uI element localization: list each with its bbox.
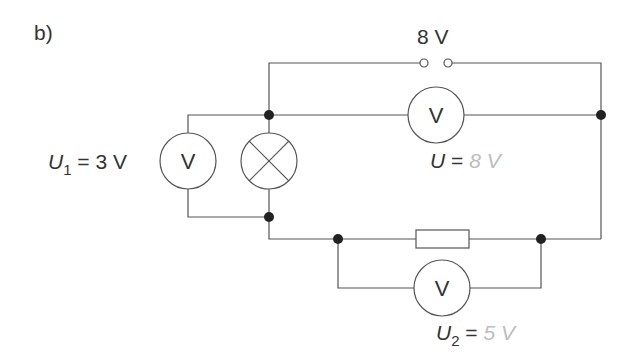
reading-u1-value: 3 V (95, 150, 127, 173)
reading-u2: U2 = 5 V (436, 322, 515, 343)
wire-middle-left (188, 115, 408, 133)
lamp-icon (241, 133, 297, 189)
reading-u1: U1 = 3 V (48, 151, 127, 172)
reading-u-equals: = (451, 149, 463, 172)
wire-u2-left (338, 239, 414, 288)
reading-u1-symbol: U (48, 150, 63, 173)
reading-u2-symbol: U (436, 321, 451, 344)
reading-u1-equals: = (77, 150, 89, 173)
circuit-diagram: V V V (0, 0, 629, 359)
reading-u: U = 8 V (430, 150, 501, 171)
wire-top-left (269, 63, 420, 115)
reading-u1-subscript: 1 (63, 161, 71, 178)
wire-u2-right (470, 239, 541, 288)
junction-dot (596, 110, 606, 120)
voltmeter-u-symbol: V (429, 103, 444, 128)
resistor-icon (416, 230, 469, 248)
wire-lamp-bottom (269, 189, 416, 239)
reading-u-value: 8 V (469, 149, 501, 172)
reading-u-symbol: U (430, 149, 445, 172)
part-label: b) (34, 22, 53, 43)
voltmeter-u2-symbol: V (435, 276, 450, 301)
voltmeter-u1: V (160, 133, 216, 189)
voltmeter-u2: V (414, 260, 470, 316)
source-terminal-right (444, 59, 452, 67)
source-terminal-left (420, 59, 428, 67)
reading-u2-value: 5 V (483, 321, 515, 344)
voltmeter-u: V (408, 87, 464, 143)
junction-dot (264, 110, 274, 120)
wire-u1-bottom (188, 189, 269, 217)
junction-dot (264, 212, 274, 222)
junction-dot (536, 234, 546, 244)
junction-dot (333, 234, 343, 244)
voltmeter-u1-symbol: V (181, 149, 196, 174)
reading-u2-subscript: 2 (451, 332, 459, 349)
reading-u2-equals: = (465, 321, 477, 344)
source-voltage-label: 8 V (417, 26, 449, 47)
